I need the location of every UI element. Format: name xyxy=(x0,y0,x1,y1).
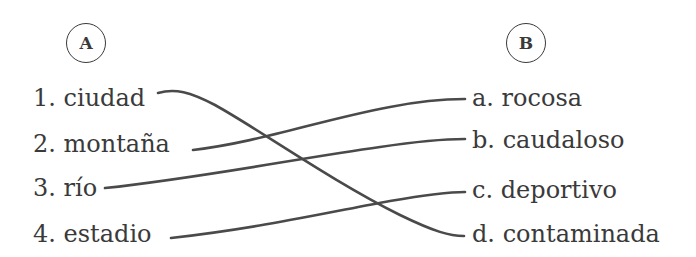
matching-lines xyxy=(0,0,696,257)
match-line-ciudad-contaminada xyxy=(158,91,464,236)
match-line-estadio-deportivo xyxy=(171,192,465,238)
match-line-rio-caudaloso xyxy=(105,139,465,188)
